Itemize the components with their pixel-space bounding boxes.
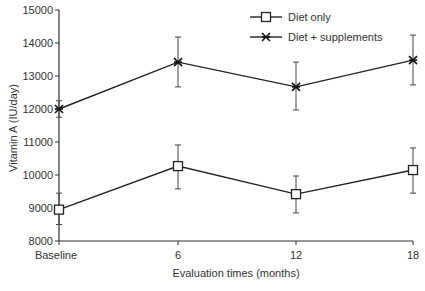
square-marker-icon xyxy=(262,13,271,22)
y-tick-label: 11000 xyxy=(23,136,53,148)
x-axis-label: Evaluation times (months) xyxy=(172,267,299,279)
square-marker-icon xyxy=(409,166,418,175)
x-tick-label: 6 xyxy=(175,249,181,261)
series-diet-supplements xyxy=(55,35,417,117)
series-diet-only xyxy=(55,145,418,225)
x-axis: Baseline61218 xyxy=(35,241,419,261)
x-tick-label: 18 xyxy=(407,249,419,261)
y-tick-label: 13000 xyxy=(22,70,53,82)
series-layer xyxy=(55,35,418,224)
legend-label: Diet + supplements xyxy=(288,31,383,43)
y-tick-label: 12000 xyxy=(22,103,53,115)
y-tick-label: 14000 xyxy=(22,37,53,49)
series-line xyxy=(59,60,413,109)
square-marker-icon xyxy=(174,162,183,171)
x-tick-label: 12 xyxy=(290,249,302,261)
legend-label: Diet only xyxy=(288,11,331,23)
legend-item: Diet + supplements xyxy=(250,31,383,43)
legend-item: Diet only xyxy=(250,11,331,23)
y-tick-label: 15000 xyxy=(22,4,53,16)
square-marker-icon xyxy=(292,190,301,199)
square-marker-icon xyxy=(55,205,64,214)
legend: Diet onlyDiet + supplements xyxy=(250,11,383,43)
y-axis: 80009000100001100012000130001400015000 xyxy=(22,4,59,247)
x-tick-label: Baseline xyxy=(35,249,77,261)
asterisk-marker-icon xyxy=(262,33,270,41)
y-tick-label: 10000 xyxy=(22,169,53,181)
line-chart: 80009000100001100012000130001400015000 B… xyxy=(0,0,425,291)
y-axis-label: Vitamin A (IU/day) xyxy=(7,84,19,172)
y-tick-label: 9000 xyxy=(29,202,53,214)
y-tick-label: 8000 xyxy=(29,235,53,247)
series-line xyxy=(59,166,413,210)
